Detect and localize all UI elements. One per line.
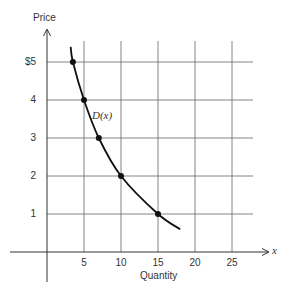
curve-label: D(x) [92, 109, 112, 121]
y-tick-1: 1 [14, 208, 36, 219]
y-tick-3: 3 [14, 132, 36, 143]
data-point [155, 211, 161, 217]
data-point [81, 97, 87, 103]
y-axis-title: Price [33, 12, 56, 23]
y-tick-4: 4 [14, 94, 36, 105]
x-tick-5: 5 [72, 257, 96, 268]
data-point [70, 59, 76, 65]
y-tick-2: 2 [14, 170, 36, 181]
x-tick-20: 20 [183, 257, 207, 268]
y-tick-5: $5 [14, 56, 36, 67]
axes [10, 29, 269, 282]
grid-lines [47, 41, 253, 252]
demand-chart [0, 0, 296, 299]
data-point [96, 135, 102, 141]
x-tick-25: 25 [220, 257, 244, 268]
x-axis-title: Quantity [140, 270, 177, 281]
data-point [118, 173, 124, 179]
x-tick-10: 10 [109, 257, 133, 268]
x-axis-symbol: x [272, 244, 277, 256]
x-tick-15: 15 [146, 257, 170, 268]
